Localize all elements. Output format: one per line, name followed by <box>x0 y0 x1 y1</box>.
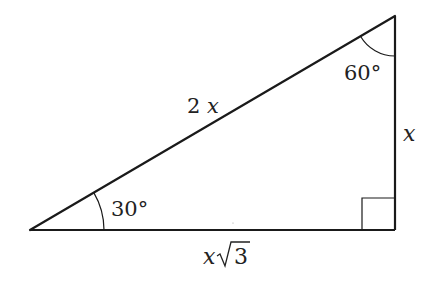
angle-arc-30 <box>94 193 104 230</box>
angle-label-30: 30° <box>111 197 148 221</box>
speck <box>232 222 233 223</box>
horizontal-leg-radicand: 3 <box>234 244 248 269</box>
horizontal-leg-variable: x <box>203 244 216 269</box>
horizontal-leg-label: x 3 <box>203 242 250 269</box>
triangle-diagram: 2 x x 30° 60° x 3 <box>0 0 428 296</box>
angle-label-60: 60° <box>344 61 381 85</box>
vertical-leg-label: x <box>403 121 416 146</box>
right-angle-marker <box>362 198 395 230</box>
hypotenuse-line <box>30 16 395 230</box>
angle-arc-60 <box>361 36 396 56</box>
hypotenuse-label: 2 x <box>187 94 219 118</box>
